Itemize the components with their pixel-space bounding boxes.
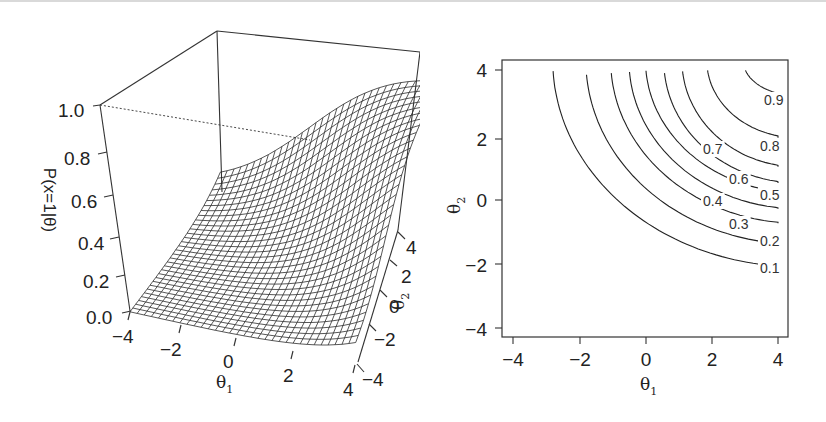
theta2-tick-label: −4 xyxy=(362,369,384,390)
z-tick-label: 0.6 xyxy=(71,191,97,212)
surface-box-back xyxy=(100,31,420,192)
contour-y-tick-label: −4 xyxy=(465,319,487,340)
z-tick-label: 0.2 xyxy=(83,271,109,292)
contour-line-0.1 xyxy=(553,71,778,267)
contour-x-tick-label: −4 xyxy=(502,349,524,370)
contour-label-bg xyxy=(758,187,782,203)
contour-label-bg xyxy=(701,193,725,209)
contour-x-ticks xyxy=(513,337,778,344)
contour-label-bg xyxy=(758,233,782,249)
contour-line-0.7 xyxy=(683,71,778,166)
contour-line-0.4 xyxy=(630,72,779,209)
contour-y-tick-label: 0 xyxy=(476,190,487,211)
contour-label-bg xyxy=(701,141,725,157)
contour-label-bg xyxy=(762,92,786,108)
contour-label-bg xyxy=(727,171,751,187)
surface-mesh xyxy=(130,81,420,345)
contour-label-0.2: 0.2 xyxy=(760,233,780,249)
contour-y-axis-title: θ2 xyxy=(444,197,468,214)
contour-label-bg xyxy=(758,260,782,276)
contour-label-0.5: 0.5 xyxy=(760,187,780,203)
contour-label-0.8: 0.8 xyxy=(760,138,780,154)
contour-line-0.3 xyxy=(611,73,778,223)
contour-lines xyxy=(553,70,778,266)
contour-line-0.2 xyxy=(587,75,779,245)
theta2-tick-label: 4 xyxy=(406,237,417,258)
contour-plot-frame xyxy=(502,60,788,337)
contour-y-ticks xyxy=(495,70,502,328)
contour-line-0.9 xyxy=(746,70,779,95)
surface-wireframe xyxy=(130,81,420,345)
contour-label-0.9: 0.9 xyxy=(764,92,784,108)
contour-x-tick-label: 4 xyxy=(773,349,784,370)
theta1-tick-label: −2 xyxy=(160,339,182,360)
theta1-tick-label: 2 xyxy=(283,365,294,386)
contour-y-tick-label: 2 xyxy=(476,129,487,150)
z-axis-title: P(x=1|θ) xyxy=(40,168,59,232)
theta2-tick-label: −2 xyxy=(374,329,396,350)
contour-x-tick-label: 0 xyxy=(641,349,652,370)
theta1-tick-label: 4 xyxy=(343,379,354,400)
contour-line-0.6 xyxy=(665,73,779,183)
contour-label-0.1: 0.1 xyxy=(760,260,780,276)
contour-x-axis-title: θ1 xyxy=(640,374,657,398)
contour-label-0.3: 0.3 xyxy=(729,216,749,232)
contour-label-0.6: 0.6 xyxy=(729,171,749,187)
theta1-tick-label: 0 xyxy=(223,351,234,372)
surface-plot-panel: 1.0 0.8 0.6 0.4 0.2 0.0 P(x=1|θ) −4 −2 0… xyxy=(0,0,420,422)
z-tick-label: 1.0 xyxy=(58,100,84,121)
theta2-tick-label: 2 xyxy=(401,266,412,287)
contour-y-tick-label: 4 xyxy=(476,60,487,81)
contour-y-tick-label: −2 xyxy=(465,255,487,276)
contour-x-tick-label: −2 xyxy=(569,349,591,370)
z-tick-label: 0.0 xyxy=(86,307,112,328)
contour-labels: 0.9 0.8 0.7 0.6 0.5 0.4 0.3 0.2 0.1 xyxy=(701,92,786,276)
contour-label-0.4: 0.4 xyxy=(703,193,723,209)
z-tick-label: 0.8 xyxy=(64,148,90,169)
contour-label-0.7: 0.7 xyxy=(703,141,723,157)
z-tick-label: 0.4 xyxy=(78,233,105,254)
contour-label-bg xyxy=(727,216,751,232)
contour-line-0.8 xyxy=(708,70,778,137)
contour-x-tick-label: 2 xyxy=(707,349,718,370)
contour-line-0.5 xyxy=(646,71,778,193)
theta1-axis-title: θ1 xyxy=(216,372,233,396)
theta1-tick-label: −4 xyxy=(112,326,134,347)
contour-label-bg xyxy=(758,138,782,154)
